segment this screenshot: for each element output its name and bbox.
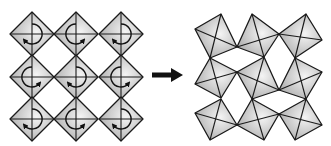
octahedron-untilted [99, 12, 143, 56]
octahedron-untilted [10, 12, 54, 56]
transition-arrow [152, 68, 183, 82]
octahedron-untilted [99, 55, 143, 99]
octahedron-untilted [99, 97, 143, 141]
octahedron-tilted [195, 14, 237, 58]
octahedron-tilted [237, 14, 279, 57]
octahedron-tilted [195, 99, 237, 140]
octahedron-tilted [237, 99, 279, 140]
arrow-right-icon [171, 68, 183, 82]
octahedron-tilted [279, 14, 322, 58]
octahedron-untilted [54, 55, 98, 99]
arrow-shaft [152, 73, 172, 78]
octahedron-untilted [10, 97, 54, 141]
octahedron-tilted [279, 58, 322, 99]
octahedron-tilted [237, 57, 279, 99]
octahedron-tilted [195, 58, 237, 98]
untilted-octahedra-panel [10, 12, 143, 141]
octahedral-tilting-diagram [0, 0, 331, 146]
octahedron-tilted [279, 99, 322, 140]
octahedron-untilted [54, 12, 98, 56]
octahedron-untilted [10, 55, 54, 99]
octahedron-untilted [54, 97, 98, 141]
tilted-octahedra-panel [195, 14, 322, 140]
